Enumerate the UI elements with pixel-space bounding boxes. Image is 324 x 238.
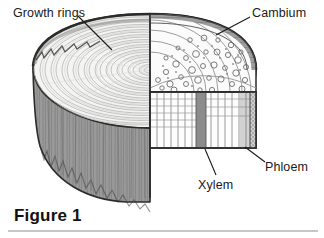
- tree-cross-section-illustration: [0, 0, 324, 238]
- label-xylem: Xylem: [198, 178, 233, 192]
- cambium-band: [196, 92, 206, 148]
- label-growth-rings: Growth rings: [13, 6, 85, 20]
- leader-xylem: [205, 149, 216, 175]
- figure-container: Growth rings Cambium Xylem Phloem Figure…: [0, 0, 324, 238]
- label-cambium: Cambium: [252, 6, 306, 20]
- leader-phloem: [245, 147, 265, 162]
- figure-caption: Figure 1: [14, 206, 82, 226]
- label-phloem: Phloem: [265, 160, 308, 174]
